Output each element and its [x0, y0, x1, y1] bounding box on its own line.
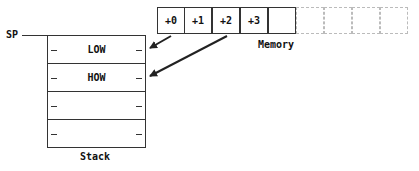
arrow-mem0-to-low	[150, 36, 171, 48]
arrows-layer	[0, 0, 419, 171]
